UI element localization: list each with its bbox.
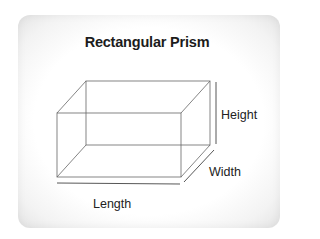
prism-edge-top-right: [181, 81, 210, 113]
prism-edge-bottom-left: [57, 145, 86, 177]
length-label: Length: [93, 197, 131, 211]
prism-edge-bottom-right: [181, 145, 210, 177]
height-label: Height: [221, 108, 257, 122]
width-label: Width: [209, 165, 241, 179]
prism-edges: [57, 81, 210, 177]
dimension-lines: [57, 82, 216, 184]
prism-edge-top-left: [57, 81, 86, 113]
length-dimension-line: [57, 183, 180, 184]
